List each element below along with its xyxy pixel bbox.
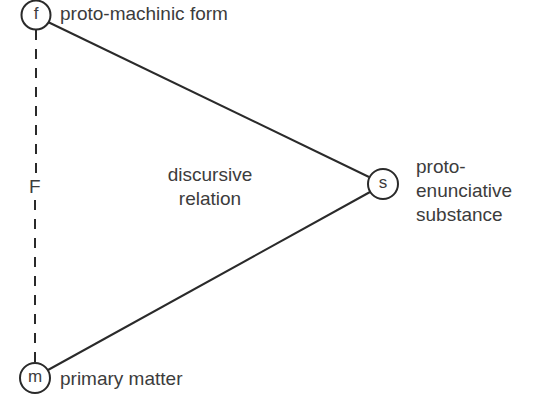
center-label: discursive relation: [155, 163, 265, 211]
center-label-line-1: discursive: [155, 163, 265, 187]
node-s-letter: s: [368, 174, 398, 191]
node-s-label-line-2: enunciative: [416, 179, 512, 203]
node-m-letter: m: [20, 368, 50, 385]
node-s-label-line-3: substance: [416, 203, 512, 227]
node-s-label-line-1: proto-: [416, 155, 512, 179]
edge-f-to-m-label: F: [29, 175, 41, 198]
node-m-label: primary matter: [60, 367, 182, 390]
node-s-label: proto- enunciative substance: [416, 155, 512, 227]
center-label-line-2: relation: [155, 187, 265, 211]
node-f-letter: f: [21, 5, 51, 22]
edge-m-to-s: [48, 192, 370, 370]
node-f-label: proto-machinic form: [60, 2, 228, 25]
edge-f-to-s: [48, 22, 369, 177]
